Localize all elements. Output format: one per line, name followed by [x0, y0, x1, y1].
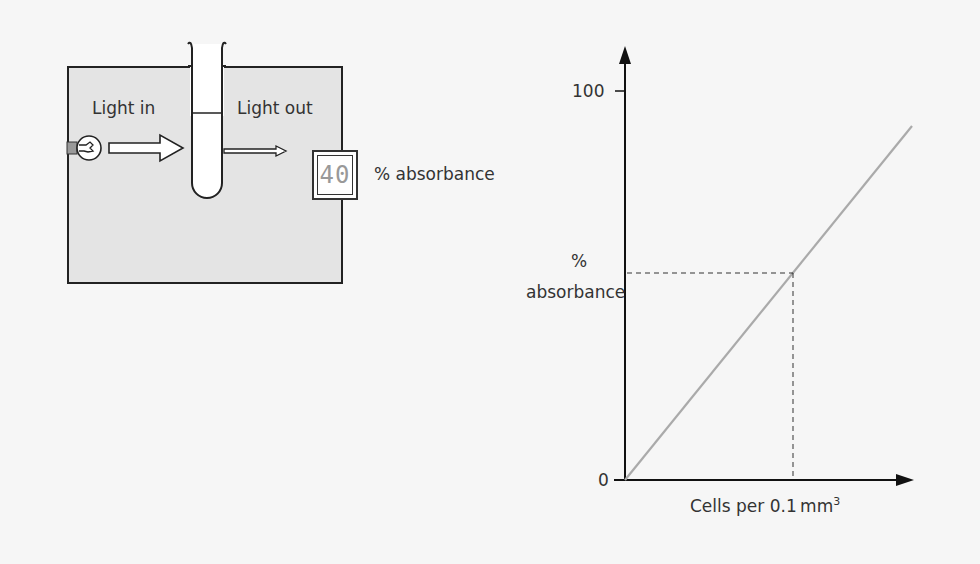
y-axis-arrow-icon: [619, 46, 631, 64]
diagram-stage: Light in Light out 40 % absorbance 100 0…: [0, 0, 980, 564]
x-axis-arrow-icon: [896, 474, 914, 486]
y-axis-label-line1: %: [571, 251, 587, 271]
x-axis-label: Cells per 0.1 mm3: [690, 495, 840, 516]
absorbance-graph: [0, 0, 980, 564]
x-axis-label-superscript: 3: [833, 495, 840, 508]
calibration-line: [625, 126, 912, 480]
x-axis-label-text: Cells per 0.1 mm: [690, 496, 833, 516]
y-tick-0-label: 0: [598, 470, 609, 490]
y-tick-100-label: 100: [572, 81, 604, 101]
y-axis-label-line2: absorbance: [526, 282, 625, 302]
